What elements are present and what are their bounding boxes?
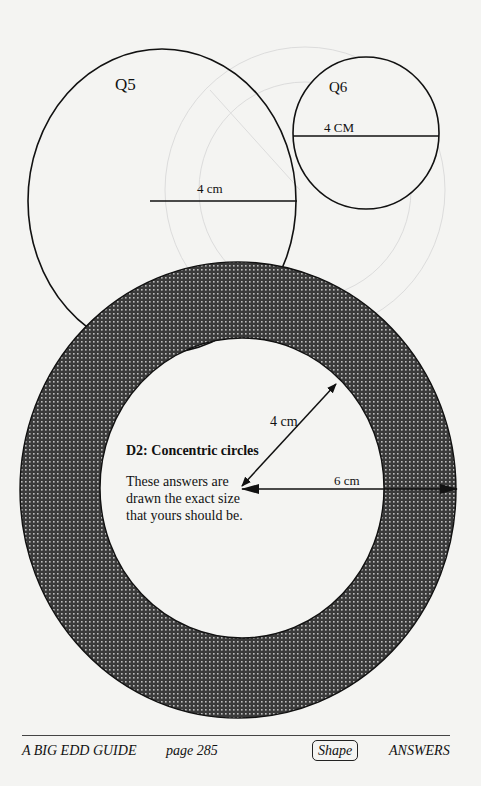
footer-divider	[22, 735, 450, 736]
inner-radius-label: 4 cm	[270, 415, 298, 429]
footer-topic-badge: Shape	[312, 740, 358, 761]
outer-radius-label: 6 cm	[334, 474, 360, 487]
q6-measure: 4 CM	[324, 121, 354, 134]
q5-label: Q5	[115, 76, 136, 93]
geometry-drawing	[0, 0, 481, 786]
d2-description: These answers are drawn the exact size t…	[126, 473, 261, 524]
q5-measure: 4 cm	[197, 182, 223, 195]
footer-section: ANSWERS	[389, 744, 450, 758]
footer-page-number: page 285	[166, 744, 218, 758]
d2-title: D2: Concentric circles	[126, 444, 259, 458]
q6-circle	[293, 57, 439, 209]
footer-book-title: A BIG EDD GUIDE	[22, 744, 136, 758]
inner-radius-arrow	[242, 384, 336, 486]
q6-label: Q6	[329, 80, 347, 95]
